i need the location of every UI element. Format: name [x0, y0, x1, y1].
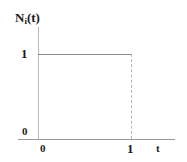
y-tick-label-1: 1	[21, 47, 28, 60]
x-axis-title: t	[156, 143, 160, 154]
step-function-plateau-segment	[38, 54, 131, 55]
y-axis-title-argument: (t)	[27, 10, 40, 25]
x-axis-line	[18, 139, 175, 140]
y-origin-label-0: 0	[22, 126, 28, 137]
step-function-plot: Ni(t) 1 0 0 1 t	[0, 0, 187, 162]
y-axis-title: Ni(t)	[15, 11, 40, 26]
x-origin-label-0: 0	[40, 143, 46, 154]
y-axis-line	[38, 27, 39, 140]
step-function-dashed-drop-line	[131, 54, 132, 139]
y-axis-title-main: N	[15, 10, 24, 25]
x-tick-label-1: 1	[127, 142, 134, 155]
